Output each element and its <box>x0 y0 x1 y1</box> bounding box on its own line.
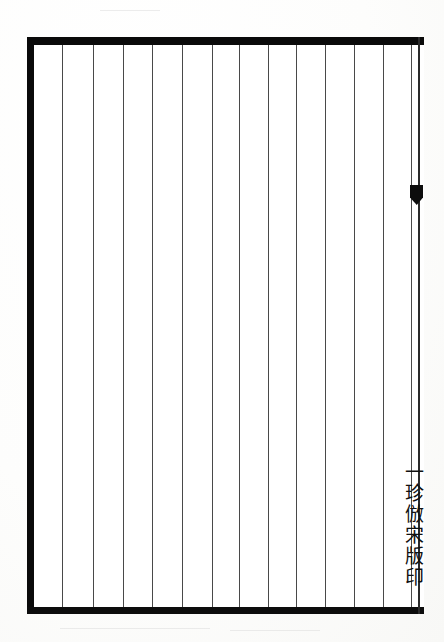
column-rule <box>383 45 384 608</box>
column-rule <box>296 45 297 608</box>
scan-speckle <box>60 628 210 629</box>
column-rule <box>268 45 269 608</box>
column-rule <box>62 45 63 608</box>
column-rule <box>212 45 213 608</box>
scan-speckle <box>230 630 320 631</box>
column-rule <box>239 45 240 608</box>
column-rule <box>325 45 326 608</box>
frame-bottom-rule <box>27 607 424 614</box>
frame-left-rule <box>27 37 34 614</box>
column-rule <box>123 45 124 608</box>
column-rule <box>354 45 355 608</box>
column-rule <box>93 45 94 608</box>
scan-speckle <box>100 10 160 11</box>
manuscript-page: 一珍倣宋版印 <box>0 0 444 642</box>
vertical-inscription: 一珍倣宋版印 <box>403 462 424 588</box>
frame-top-rule <box>27 37 424 45</box>
column-rule <box>182 45 183 608</box>
block-interior <box>27 37 424 614</box>
ruled-block-frame <box>27 37 424 614</box>
column-rule <box>152 45 153 608</box>
